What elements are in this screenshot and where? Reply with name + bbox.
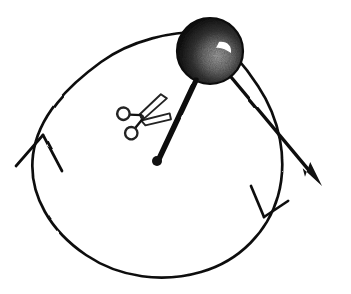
paper-background — [0, 0, 351, 294]
center-pivot-dot — [152, 156, 162, 166]
diagram-canvas — [0, 0, 351, 294]
diagram-svg — [0, 0, 351, 294]
ball — [177, 18, 243, 84]
